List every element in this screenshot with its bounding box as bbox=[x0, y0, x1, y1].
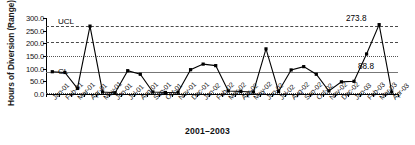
data-point-marker bbox=[51, 70, 54, 73]
data-point-marker bbox=[63, 71, 66, 74]
y-tick-label: 150.0 bbox=[26, 52, 44, 61]
y-tick-label: 50.0 bbox=[30, 77, 44, 86]
x-axis-tick-labels: Jan-01Feb-01Mar-01Apr-01May-01Jun-01Jul-… bbox=[46, 96, 398, 126]
data-point-marker bbox=[202, 63, 205, 66]
data-point-marker bbox=[302, 65, 305, 68]
data-point-marker bbox=[88, 25, 91, 28]
y-tick-label: 100.0 bbox=[26, 64, 44, 73]
y-tick-label: 300.0 bbox=[26, 14, 44, 23]
data-point-marker bbox=[264, 47, 267, 50]
y-tick-label: 0.0 bbox=[34, 90, 44, 99]
data-point-marker bbox=[139, 73, 142, 76]
data-point-marker bbox=[378, 23, 381, 26]
data-point-marker bbox=[290, 68, 293, 71]
x-axis-title: 2001–2003 bbox=[0, 126, 415, 136]
data-point-marker bbox=[214, 64, 217, 67]
data-point-marker bbox=[126, 69, 129, 72]
data-point-marker bbox=[189, 68, 192, 71]
y-tick-label: 250.0 bbox=[26, 26, 44, 35]
data-point-marker bbox=[365, 52, 368, 55]
data-point-marker bbox=[315, 73, 318, 76]
y-axis-title: Hours of Diversion (Range) bbox=[6, 0, 16, 108]
y-axis-tick-labels: 300.0 250.0 200.0 150.0 100.0 50.0 0.0 bbox=[16, 18, 44, 94]
spc-chart: Hours of Diversion (Range) 300.0 250.0 2… bbox=[0, 0, 415, 145]
y-tick-label: 200.0 bbox=[26, 39, 44, 48]
